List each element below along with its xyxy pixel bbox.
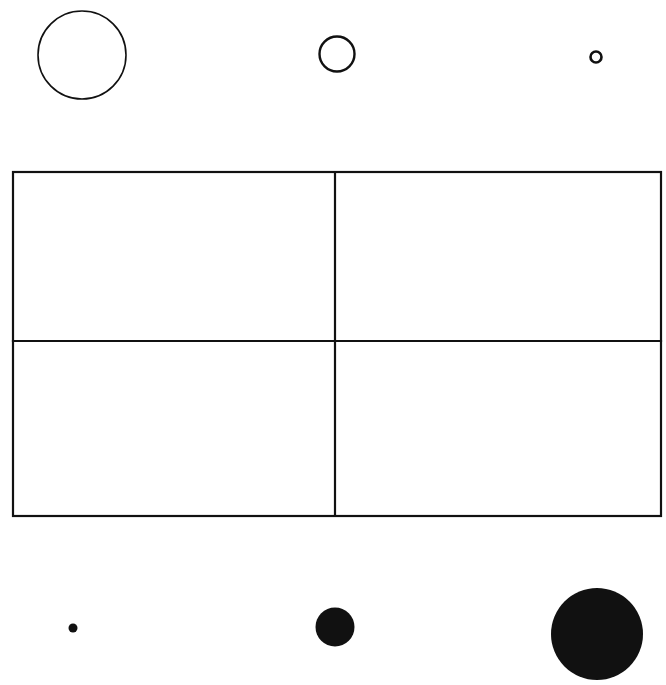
large-filled-circle xyxy=(551,588,643,680)
small-filled-circle xyxy=(69,624,78,633)
grid-outer-border xyxy=(13,172,661,516)
medium-filled-circle xyxy=(316,608,355,647)
top-row-group xyxy=(38,11,602,99)
figure-canvas xyxy=(0,0,666,685)
figure-drawing xyxy=(0,0,666,685)
medium-outlined-circle xyxy=(320,37,355,72)
bottom-row-group xyxy=(69,588,644,680)
rectangle-grid xyxy=(13,172,661,516)
large-outlined-circle xyxy=(38,11,126,99)
small-outlined-circle xyxy=(591,52,602,63)
